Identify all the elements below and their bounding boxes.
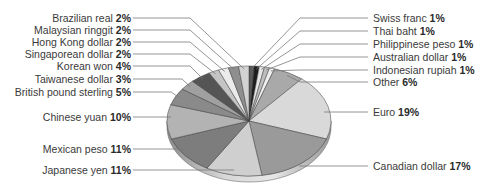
label-percent: 1%	[459, 64, 475, 76]
label-percent: 17%	[449, 160, 471, 172]
svg-text:Other 6%: Other 6%	[373, 76, 418, 88]
label-name: Korean won	[57, 60, 116, 72]
currency-pie-chart: Swiss franc 1%Thai baht 1%Philippinese p…	[0, 0, 486, 188]
label-name: Malaysian ringgit	[34, 24, 116, 36]
slice-label-chinese-yuan: Chinese yuan 10%	[43, 111, 171, 123]
label-name: Singaporean dollar	[25, 48, 116, 60]
leader-line	[252, 18, 369, 69]
label-percent: 3%	[116, 73, 132, 85]
label-name: Canadian dollar	[373, 160, 449, 172]
label-percent: 1%	[430, 12, 446, 24]
svg-text:Euro 19%: Euro 19%	[373, 106, 420, 118]
svg-text:Indonesian rupiah 1%: Indonesian rupiah 1%	[373, 64, 475, 76]
slice-label-british-pound-sterling: British pound sterling 5%	[15, 86, 179, 98]
leader-line	[133, 54, 216, 74]
label-name: Chinese yuan	[43, 111, 110, 123]
label-percent: 2%	[116, 24, 132, 36]
svg-text:Swiss franc 1%: Swiss franc 1%	[373, 12, 445, 24]
leader-line	[133, 30, 234, 70]
svg-text:Malaysian ringgit 2%: Malaysian ringgit 2%	[34, 24, 132, 36]
label-name: Swiss franc	[373, 12, 430, 24]
leader-line	[133, 79, 190, 87]
label-percent: 2%	[116, 12, 132, 24]
label-percent: 6%	[402, 76, 418, 88]
leader-line	[133, 66, 203, 79]
svg-text:Canadian dollar 17%: Canadian dollar 17%	[373, 160, 471, 172]
leader-line	[133, 92, 179, 98]
svg-text:Singaporean dollar 2%: Singaporean dollar 2%	[25, 48, 132, 60]
pie-slices	[167, 66, 331, 176]
label-percent: 5%	[116, 86, 132, 98]
leader-line	[266, 57, 368, 70]
leader-line	[133, 42, 225, 71]
svg-text:Thai baht 1%: Thai baht 1%	[373, 25, 436, 37]
svg-text:Brazilian real 2%: Brazilian real 2%	[52, 12, 131, 24]
label-percent: 1%	[458, 38, 474, 50]
label-percent: 19%	[398, 106, 420, 118]
label-name: Australian dollar	[373, 51, 451, 63]
leader-line	[133, 18, 244, 69]
label-name: Other	[373, 76, 402, 88]
label-percent: 4%	[116, 60, 132, 72]
label-percent: 11%	[111, 143, 132, 155]
label-name: Philippinese peso	[373, 38, 458, 50]
label-name: British pound sterling	[15, 86, 116, 98]
svg-text:British pound sterling 5%: British pound sterling 5%	[15, 86, 132, 98]
svg-text:Australian dollar 1%: Australian dollar 1%	[373, 51, 467, 63]
leader-line	[271, 70, 368, 71]
label-name: Taiwanese dollar	[35, 73, 116, 85]
slice-label-indonesian-rupiah: Indonesian rupiah 1%	[271, 64, 475, 76]
slice-label-euro: Euro 19%	[324, 106, 420, 118]
label-percent: 1%	[451, 51, 467, 63]
label-name: Brazilian real	[52, 12, 116, 24]
label-name: Hong Kong dollar	[32, 36, 116, 48]
svg-text:Taiwanese dollar 3%: Taiwanese dollar 3%	[35, 73, 132, 85]
label-percent: 10%	[110, 111, 132, 123]
svg-text:Japanese yen 11%: Japanese yen 11%	[42, 164, 131, 176]
svg-text:Mexican peso 11%: Mexican peso 11%	[43, 143, 132, 155]
label-percent: 2%	[116, 36, 132, 48]
label-name: Euro	[373, 106, 398, 118]
label-name: Thai baht	[373, 25, 420, 37]
slice-label-mexican-peso: Mexican peso 11%	[43, 143, 189, 155]
label-percent: 2%	[116, 48, 132, 60]
slice-label-canadian-dollar: Canadian dollar 17%	[299, 160, 471, 172]
label-percent: 11%	[111, 164, 132, 176]
label-percent: 1%	[420, 25, 436, 37]
label-name: Indonesian rupiah	[373, 64, 459, 76]
svg-text:Hong Kong dollar 2%: Hong Kong dollar 2%	[32, 36, 132, 48]
svg-text:Korean won 4%: Korean won 4%	[57, 60, 132, 72]
svg-text:Chinese yuan 10%: Chinese yuan 10%	[43, 111, 132, 123]
label-name: Mexican peso	[43, 143, 111, 155]
label-name: Japanese yen	[42, 164, 110, 176]
leader-line	[256, 31, 368, 69]
svg-text:Philippinese peso 1%: Philippinese peso 1%	[373, 38, 474, 50]
